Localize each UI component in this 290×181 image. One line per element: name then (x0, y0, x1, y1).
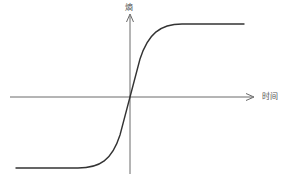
y-axis-label: 熵 (125, 4, 133, 12)
x-axis-label: 时间 (262, 93, 278, 101)
diagram-svg (0, 0, 290, 181)
sigmoid-diagram: 熵 时间 (0, 0, 290, 181)
